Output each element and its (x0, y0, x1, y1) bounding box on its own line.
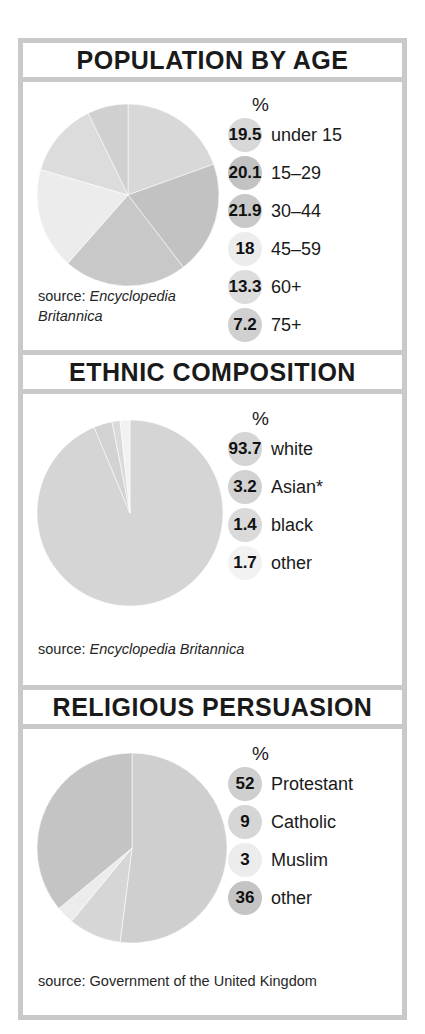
legend-percent-header-1: % (252, 408, 323, 430)
legend-label: under 15 (271, 125, 342, 146)
source-population-by-age: source: Encyclopedia Britannica (38, 287, 218, 326)
legend-row: 1.7other (228, 544, 323, 582)
panel-population-by-age: POPULATION BY AGE % 19.5under 1520.115–2… (23, 43, 402, 350)
pie-svg (37, 420, 223, 606)
source-name-2: Government of the United Kingdom (90, 973, 317, 989)
legend-label: 45–59 (271, 239, 321, 260)
legend-row: 1.4black (228, 506, 323, 544)
panel-religious-persuasion: RELIGIOUS PERSUASION % 52Protestant9Cath… (23, 690, 402, 1019)
pie-svg (37, 104, 219, 286)
legend-value-badge: 3 (228, 843, 262, 877)
legend-value-badge: 1.4 (228, 508, 262, 542)
legend-row: 52Protestant (228, 765, 353, 803)
legend-label: 30–44 (271, 201, 321, 222)
legend-row: 19.5under 15 (228, 116, 342, 154)
panel-body-ethnic-composition: % 93.7white3.2Asian*1.4black1.7other sou… (23, 394, 402, 685)
legend-value-badge: 52 (228, 767, 262, 801)
legend-label: Catholic (271, 812, 336, 833)
legend-row: 3.2Asian* (228, 468, 323, 506)
legend-religious-persuasion: % 52Protestant9Catholic3Muslim36other (228, 743, 353, 917)
pie-chart-population-by-age (37, 104, 219, 286)
panel-title-population-by-age: POPULATION BY AGE (23, 43, 402, 82)
legend-percent-header-2: % (252, 743, 353, 765)
legend-row: 7.275+ (228, 306, 342, 344)
pie-chart-ethnic-composition (37, 420, 223, 606)
panel-title-religious-persuasion: RELIGIOUS PERSUASION (23, 690, 402, 729)
legend-value-badge: 18 (228, 232, 262, 266)
legend-value-badge: 1.7 (228, 546, 262, 580)
legend-label: black (271, 515, 313, 536)
legend-label: 60+ (271, 277, 302, 298)
panel-body-religious-persuasion: % 52Protestant9Catholic3Muslim36other so… (23, 729, 402, 1019)
legend-ethnic-composition: % 93.7white3.2Asian*1.4black1.7other (228, 408, 323, 582)
legend-value-badge: 13.3 (228, 270, 262, 304)
legend-row: 9Catholic (228, 803, 353, 841)
legend-label: Protestant (271, 774, 353, 795)
legend-row: 93.7white (228, 430, 323, 468)
legend-label: Muslim (271, 850, 328, 871)
legend-percent-header-0: % (252, 94, 342, 116)
pie-slice (120, 753, 227, 943)
legend-value-badge: 3.2 (228, 470, 262, 504)
legend-population-by-age: % 19.5under 1520.115–2921.930–441845–591… (228, 94, 342, 344)
panel-body-population-by-age: % 19.5under 1520.115–2921.930–441845–591… (23, 82, 402, 350)
infographic-container: POPULATION BY AGE % 19.5under 1520.115–2… (18, 38, 407, 1020)
source-prefix-1: source: (38, 641, 86, 657)
source-name-1: Encyclopedia Britannica (90, 641, 245, 657)
panel-ethnic-composition: ETHNIC COMPOSITION % 93.7white3.2Asian*1… (23, 355, 402, 685)
legend-label: other (271, 553, 312, 574)
legend-row: 36other (228, 879, 353, 917)
legend-row: 1845–59 (228, 230, 342, 268)
pie-svg (37, 753, 227, 943)
legend-value-badge: 7.2 (228, 308, 262, 342)
source-religious-persuasion: source: Government of the United Kingdom (38, 972, 378, 992)
legend-label: 15–29 (271, 163, 321, 184)
source-prefix-0: source: (38, 288, 86, 304)
legend-label: other (271, 888, 312, 909)
source-ethnic-composition: source: Encyclopedia Britannica (38, 640, 368, 660)
legend-label: white (271, 439, 313, 460)
legend-value-badge: 9 (228, 805, 262, 839)
source-prefix-2: source: (38, 973, 86, 989)
legend-row: 21.930–44 (228, 192, 342, 230)
legend-value-badge: 36 (228, 881, 262, 915)
legend-value-badge: 93.7 (228, 432, 262, 466)
panel-title-ethnic-composition: ETHNIC COMPOSITION (23, 355, 402, 394)
legend-label: Asian* (271, 477, 323, 498)
legend-value-badge: 21.9 (228, 194, 262, 228)
legend-value-badge: 19.5 (228, 118, 262, 152)
legend-row: 13.360+ (228, 268, 342, 306)
legend-row: 20.115–29 (228, 154, 342, 192)
legend-label: 75+ (271, 315, 302, 336)
legend-row: 3Muslim (228, 841, 353, 879)
legend-value-badge: 20.1 (228, 156, 262, 190)
pie-chart-religious-persuasion (37, 753, 227, 943)
